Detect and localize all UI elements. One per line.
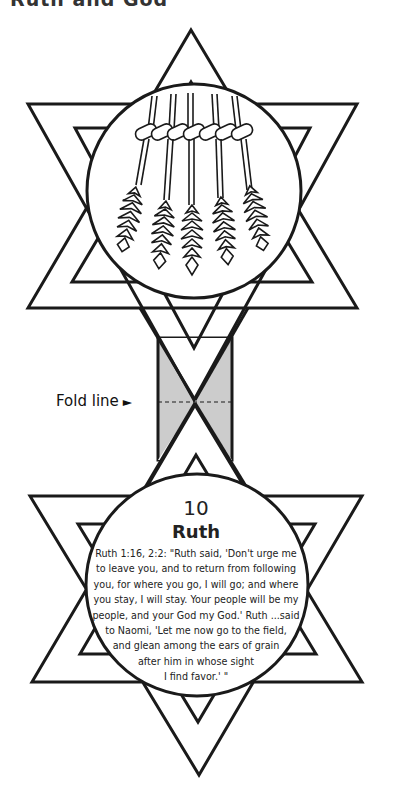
verse-line: and glean among the ears of grain — [86, 638, 306, 653]
verse-text: Ruth 1:16, 2:2: "Ruth said, 'Don't urge … — [86, 546, 306, 685]
verse-line: Ruth 1:16, 2:2: "Ruth said, 'Don't urge … — [86, 546, 306, 561]
verse-line: I find favor.' " — [86, 669, 306, 684]
fold-line-label: Fold line► — [56, 392, 132, 410]
verse-line: after him in whose sight — [86, 654, 306, 669]
verse-line: you stay, I will stay. Your people will … — [86, 592, 306, 607]
verse-line: to leave you, and to return from followi… — [86, 561, 306, 576]
card-title: Ruth — [86, 520, 306, 544]
card-text: 10 Ruth Ruth 1:16, 2:2: "Ruth said, 'Don… — [86, 496, 306, 685]
fold-line-text: Fold line — [56, 392, 119, 410]
verse-line: people, and your God my God.' Ruth ...sa… — [86, 608, 306, 623]
verse-line: you, for where you go, I will go; and wh… — [86, 577, 306, 592]
arrow-right-icon: ► — [123, 395, 132, 409]
card-number: 10 — [86, 496, 306, 520]
verse-line: to Naomi, 'Let me now go to the field, — [86, 623, 306, 638]
